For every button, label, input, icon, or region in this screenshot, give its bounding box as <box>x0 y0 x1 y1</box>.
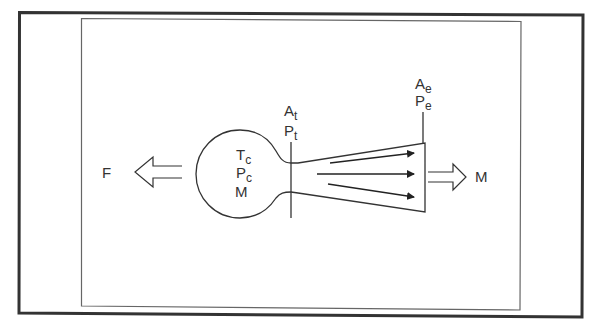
chamber-pressure-label: Pc <box>236 164 252 185</box>
throat-pressure-label: Pt <box>284 122 298 143</box>
flow-arrow-bottom <box>328 184 414 197</box>
exhaust-mass-label: M <box>475 168 488 185</box>
nozzle <box>291 143 425 212</box>
throat-area-label: At <box>284 102 298 123</box>
rocket-engine-diagram: F Tc Pc M At Pt Ae Pe M <box>0 0 595 326</box>
chamber-mass-label: M <box>235 183 248 200</box>
inner-frame <box>82 19 522 311</box>
exhaust-arrow-right <box>428 164 466 190</box>
thrust-arrow-left <box>135 157 182 187</box>
thrust-label: F <box>102 164 111 181</box>
flow-arrows <box>317 153 414 197</box>
flow-arrow-top <box>330 153 414 163</box>
